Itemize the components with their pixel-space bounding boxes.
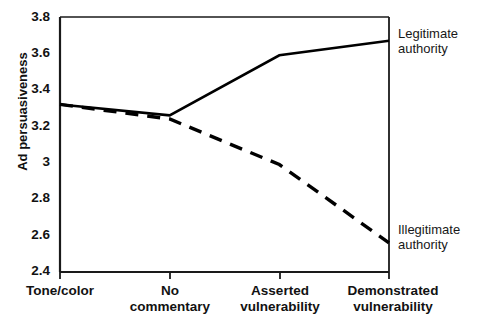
chart-figure: Ad persuasiveness 3.8 3.6 3.4 3.2 3 2.8 … xyxy=(0,0,477,330)
x-axis-category-label-tone-color: Tone/color xyxy=(10,283,110,299)
series-line-legitimate-authority xyxy=(60,41,389,116)
series-line-illegitimate-authority xyxy=(60,104,389,242)
x-axis-category-label-no-commentary: No commentary xyxy=(120,283,220,315)
x-axis-category-label-asserted-vulnerability: Asserted vulnerability xyxy=(222,283,338,315)
series-label-legitimate-authority: Legitimate authority xyxy=(398,26,458,56)
x-axis-category-label-demonstrated-vulnerability: Demonstrated vulnerability xyxy=(330,283,456,315)
series-label-illegitimate-authority: Illegitimate authority xyxy=(398,222,460,252)
